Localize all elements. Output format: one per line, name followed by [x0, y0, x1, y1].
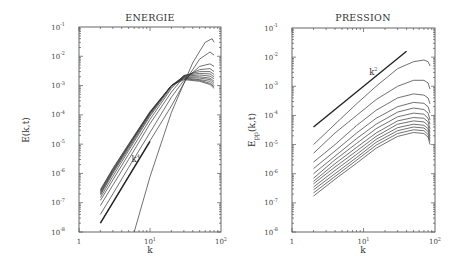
energy-y-tick-label: 10-2 — [51, 50, 65, 61]
pressure-y-tick-label: 10-4 — [264, 109, 278, 120]
energy-y-tick-labels: 10-110-210-310-410-510-610-710-8 — [51, 21, 65, 237]
energy-y-axis-label: E(k,t) — [21, 117, 31, 143]
pressure-x-tick-label: 1 — [290, 238, 294, 246]
energy-x-axis-label: k — [147, 245, 153, 255]
energy-y-tick-label: 10-6 — [51, 167, 65, 178]
energy-series-t5 — [100, 73, 214, 197]
pressure-series-t12 — [314, 133, 431, 197]
energy-y-tick-label: 10-3 — [51, 80, 65, 91]
pressure-y-tick-label: 10-7 — [264, 197, 278, 208]
pressure-y-axis-label: Epp(k,t) — [247, 113, 260, 147]
energy-series-t7 — [100, 77, 214, 194]
energy-panel: ENERGIE 1101102 10-110-210-310-410-510-6… — [21, 12, 227, 255]
pressure-y-tick-label: 10-8 — [264, 226, 278, 237]
pressure-y-tick-label: 10-3 — [264, 80, 278, 91]
energy-y-tick-label: 10-8 — [51, 226, 65, 237]
pressure-x-tick-label: 102 — [429, 236, 441, 247]
energy-series-t10 — [100, 79, 214, 191]
energy-series-t0 — [134, 39, 214, 232]
pressure-y-tick-labels: 10-110-210-310-410-510-610-710-8 — [264, 22, 278, 237]
figure: ENERGIE 1101102 10-110-210-310-410-510-6… — [0, 0, 460, 268]
energy-ticks — [79, 27, 221, 232]
energy-curves — [100, 39, 214, 232]
pressure-x-axis-label: k — [360, 245, 366, 255]
pressure-y-tick-label: 10-1 — [264, 22, 278, 33]
pressure-y-tick-label: 10-2 — [264, 51, 278, 62]
pressure-panel: PRESSION 1101102 10-110-210-310-410-510-… — [247, 12, 441, 255]
energy-series-t4 — [100, 72, 214, 201]
energy-chart-title: ENERGIE — [125, 12, 175, 23]
energy-y-tick-label: 10-7 — [51, 197, 65, 208]
energy-plot-frame — [79, 27, 221, 232]
energy-y-tick-label: 10-1 — [51, 21, 65, 32]
energy-series-t9 — [100, 78, 214, 192]
energy-y-tick-label: 10-5 — [51, 138, 65, 149]
energy-x-tick-label: 102 — [215, 236, 227, 247]
pressure-y-tick-label: 10-5 — [264, 139, 278, 150]
pressure-series-t9 — [314, 124, 431, 187]
energy-x-tick-label: 1 — [77, 238, 81, 246]
energy-y-tick-label: 10-4 — [51, 109, 65, 120]
energy-series-t2 — [100, 64, 214, 215]
energy-series-t3 — [100, 69, 214, 206]
energy-series-t8 — [100, 77, 214, 192]
energy-k4-annotation: k4 — [132, 153, 140, 164]
pressure-chart-title: PRESSION — [335, 12, 391, 23]
pressure-y-tick-label: 10-6 — [264, 168, 278, 179]
